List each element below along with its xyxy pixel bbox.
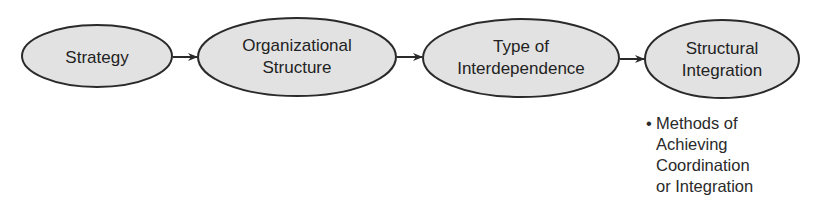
node-structural-integration: Structural Integration <box>645 20 799 98</box>
node-type-of-interdependence: Type of Interdependence <box>423 19 619 97</box>
note-line: or Integration <box>656 176 753 197</box>
node-label-line-1: Organizational <box>242 36 352 55</box>
node-organizational-structure: Organizational Structure <box>198 18 396 96</box>
node-ellipse <box>645 20 799 98</box>
node-ellipse <box>198 18 396 96</box>
node-strategy: Strategy <box>22 25 172 87</box>
note-line: Methods of <box>656 113 753 134</box>
note-line: Achieving <box>656 134 753 155</box>
node-ellipse <box>423 19 619 97</box>
node-label-line-2: Structure <box>263 58 332 77</box>
note-line: Coordination <box>656 155 753 176</box>
node-label-line-2: Integration <box>682 61 762 80</box>
bullet-icon: • <box>646 113 652 134</box>
node-label-line-1: Type of <box>493 37 549 56</box>
structural-integration-note: • Methods of Achieving Coordination or I… <box>646 113 753 197</box>
node-label-line-2: Interdependence <box>457 59 585 78</box>
node-label: Strategy <box>65 48 129 67</box>
node-label-line-1: Structural <box>686 39 759 58</box>
